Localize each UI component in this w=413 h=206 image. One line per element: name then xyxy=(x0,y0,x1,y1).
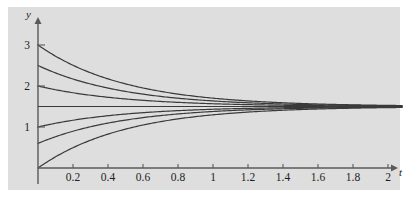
x-axis-label: t xyxy=(399,166,402,178)
y-axis-arrow xyxy=(35,17,42,24)
axes-group xyxy=(35,17,399,184)
x-tick-label: 0.8 xyxy=(171,171,186,183)
x-tick-label: 1.2 xyxy=(241,171,256,183)
x-tick-label: 0.4 xyxy=(101,171,116,183)
x-tick-label: 1.4 xyxy=(276,171,291,183)
x-tick-label: 0.6 xyxy=(136,171,151,183)
x-tick-label: 0.2 xyxy=(66,171,81,183)
y-tick-label: 1 xyxy=(24,121,30,133)
plot-svg: 0.20.40.60.811.21.41.61.82123 xyxy=(0,0,413,206)
figure-container: 0.20.40.60.811.21.41.61.82123 y t xyxy=(0,0,413,206)
y-tick-label: 2 xyxy=(24,80,30,92)
x-axis-arrow xyxy=(391,165,398,172)
curves-group xyxy=(38,45,402,168)
x-tick-label: 1.8 xyxy=(346,171,361,183)
y-axis-label: y xyxy=(26,8,31,20)
x-tick-label: 2 xyxy=(385,171,391,183)
x-tick-label: 1 xyxy=(210,171,216,183)
solution-curve xyxy=(38,107,402,127)
solution-curve xyxy=(38,45,402,106)
solution-curve xyxy=(38,66,402,106)
solution-curve xyxy=(38,107,402,168)
y-tick-label: 3 xyxy=(24,39,30,51)
solution-curve xyxy=(38,107,402,143)
x-tick-label: 1.6 xyxy=(311,171,326,183)
solution-curve xyxy=(38,86,402,106)
tick-labels-group: 0.20.40.60.811.21.41.61.82123 xyxy=(24,39,391,183)
